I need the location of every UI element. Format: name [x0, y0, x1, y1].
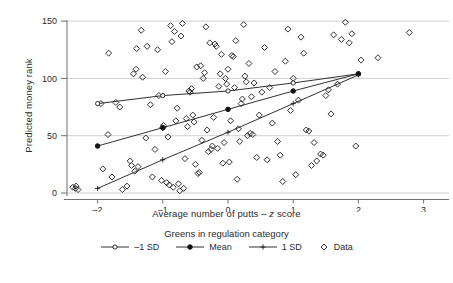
- legend-item-mean[interactable]: Mean: [175, 242, 232, 252]
- fit-lines: [95, 72, 361, 192]
- plus-legend-icon: [248, 242, 278, 252]
- svg-text:150: 150: [42, 16, 57, 26]
- plot-area: 050100150–2–10123: [0, 0, 453, 212]
- axis-ticks: [61, 20, 449, 203]
- legend-item-1-sd[interactable]: 1 SD: [248, 242, 302, 252]
- legend-items: –1 SDMean1 SDData: [0, 242, 453, 252]
- svg-text:100: 100: [42, 74, 57, 84]
- legend-item-label: Data: [334, 243, 353, 252]
- gridlines: [67, 21, 449, 193]
- open-diamond-legend-icon: [318, 242, 330, 252]
- legend-item-data[interactable]: Data: [318, 242, 353, 252]
- x-axis-title-prefix: Average number of putts –: [152, 208, 269, 219]
- legend-item-label: Mean: [209, 243, 232, 252]
- svg-text:0: 0: [52, 188, 57, 198]
- legend-item-1-sd[interactable]: –1 SD: [100, 242, 159, 252]
- open-circle-legend-icon: [100, 242, 130, 252]
- svg-text:50: 50: [47, 131, 57, 141]
- legend-title: Greens in regulation category: [0, 228, 453, 239]
- x-axis-title: Average number of putts – z score: [0, 208, 453, 219]
- scatter-points: [70, 19, 412, 193]
- legend: Greens in regulation category –1 SDMean1…: [0, 228, 453, 252]
- chart-figure: Predicted money rank 050100150–2–10123 A…: [0, 0, 453, 283]
- axis-tick-labels: 050100150–2–10123: [42, 16, 426, 212]
- x-axis-title-suffix: score: [274, 208, 300, 219]
- legend-item-label: 1 SD: [282, 243, 302, 252]
- legend-item-label: –1 SD: [134, 243, 159, 252]
- filled-circle-legend-icon: [175, 242, 205, 252]
